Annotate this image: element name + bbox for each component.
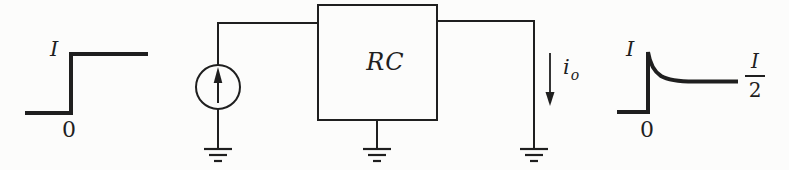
output-peak-label: I	[626, 39, 634, 60]
output-origin-label: 0	[640, 119, 654, 141]
input-step-waveform	[25, 54, 148, 113]
rc-block-label: RC	[326, 50, 445, 74]
current-source-arrowhead	[214, 67, 223, 83]
output-current-subscript: o	[571, 67, 579, 83]
input-origin-label: 0	[62, 119, 76, 141]
wire-block-to-output-ground	[437, 21, 534, 149]
output-final-value-fraction: I 2	[744, 51, 766, 100]
diagram-canvas	[0, 0, 789, 170]
fraction-denominator: 2	[744, 77, 766, 100]
circuit-figure: I 0 RC io I 0 I 2	[0, 0, 789, 170]
output-current-label: io	[563, 57, 578, 78]
ground-symbol-source	[204, 149, 232, 161]
ground-symbol-block	[363, 149, 391, 161]
input-amplitude-label: I	[50, 39, 58, 60]
ground-symbol-output	[520, 149, 548, 161]
output-current-symbol: i	[563, 55, 570, 79]
fraction-numerator: I	[744, 51, 766, 75]
output-current-arrowhead	[546, 92, 555, 106]
output-decay-waveform	[617, 52, 738, 112]
wire-source-to-block	[218, 23, 318, 65]
